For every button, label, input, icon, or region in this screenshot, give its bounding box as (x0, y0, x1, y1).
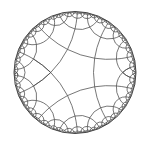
tiling-edge (45, 20, 46, 21)
poincare-disk-tiling (0, 0, 149, 145)
tiling-edge (134, 64, 135, 65)
background (0, 0, 149, 145)
tiling-edge (113, 26, 114, 27)
tiling-edge (121, 34, 122, 35)
tiling-edge (130, 95, 131, 96)
tiling-edge (96, 16, 97, 17)
tiling-edge (45, 124, 46, 125)
tiling-edge (16, 59, 17, 60)
tiling-edge (101, 126, 102, 127)
tiling-edge (130, 50, 131, 51)
tiling-edge (135, 77, 136, 78)
